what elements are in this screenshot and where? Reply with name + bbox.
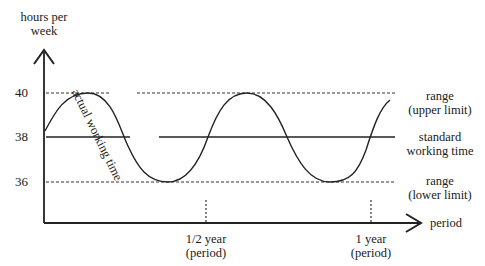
standard-working-time-label: standard working time <box>397 130 483 158</box>
half-year-label: 1/2 year (period) <box>176 232 236 260</box>
lower-limit-label: range (lower limit) <box>397 174 483 202</box>
one-year-label-line1: 1 year <box>341 232 401 246</box>
y-axis-label-line1: hours per <box>12 10 76 24</box>
upper-limit-label-line2: (upper limit) <box>397 103 483 117</box>
y-tick-36: 36 <box>15 175 28 189</box>
standard-label-line2: working time <box>397 144 483 158</box>
one-year-label-line2: (period) <box>341 246 401 260</box>
x-axis-label: period <box>430 216 462 230</box>
lower-limit-label-line2: (lower limit) <box>397 188 483 202</box>
standard-label-line1: standard <box>397 130 483 144</box>
y-axis-label-line2: week <box>12 24 76 38</box>
upper-limit-label-line1: range <box>397 89 483 103</box>
one-year-label: 1 year (period) <box>341 232 401 260</box>
y-axis-label: hours per week <box>12 10 76 38</box>
lower-limit-label-line1: range <box>397 174 483 188</box>
upper-limit-label: range (upper limit) <box>397 89 483 117</box>
half-year-label-line1: 1/2 year <box>176 232 236 246</box>
half-year-label-line2: (period) <box>176 246 236 260</box>
y-tick-38: 38 <box>15 130 28 144</box>
y-tick-40: 40 <box>15 86 28 100</box>
